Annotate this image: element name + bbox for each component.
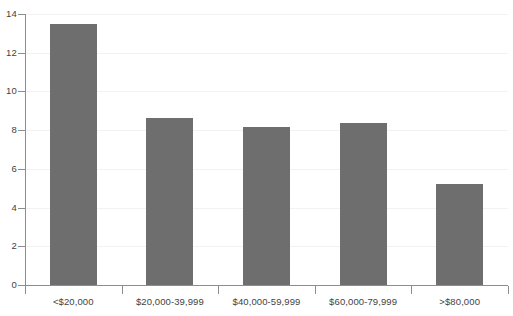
bar [243,127,290,285]
x-axis-tick-label: $20,000-39,999 [122,296,219,307]
x-axis-tick [122,286,123,294]
x-axis-tick-label: <$20,000 [25,296,122,307]
x-axis-tick [411,286,412,294]
y-axis-tick-label: 8 [0,125,17,135]
bar [436,184,483,285]
x-axis-tick [218,286,219,294]
bar [340,123,387,285]
bar [146,118,193,285]
x-axis-tick [508,286,509,294]
bar-chart: 02468101214 <$20,000$20,000-39,999$40,00… [0,0,513,316]
y-axis-tick-label: 6 [0,164,17,174]
y-axis-tick [18,14,25,15]
x-axis-tick-label: $40,000-59,999 [218,296,315,307]
x-axis-tick-label: >$80,000 [411,296,508,307]
y-axis-tick-label: 12 [0,48,17,58]
y-axis-tick [18,285,25,286]
x-axis-line [25,285,508,286]
y-axis-tick [18,169,25,170]
y-axis-tick-label: 10 [0,86,17,96]
y-axis-tick [18,130,25,131]
bars-layer [25,14,508,285]
y-axis-tick [18,208,25,209]
y-axis-tick [18,91,25,92]
y-axis-tick [18,53,25,54]
y-axis-tick-label: 0 [0,280,17,290]
y-axis-tick [18,246,25,247]
y-axis-tick-label: 4 [0,203,17,213]
y-axis-tick-label: 2 [0,241,17,251]
y-axis-tick-label: 14 [0,9,17,19]
x-axis-tick-label: $60,000-79,999 [315,296,412,307]
x-axis-tick [25,286,26,294]
x-axis-tick [315,286,316,294]
bar [50,24,97,285]
y-axis-line [25,14,26,294]
